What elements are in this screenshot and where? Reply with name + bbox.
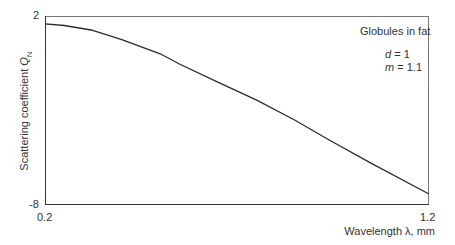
x-axis-label: Wavelength λ, mm xyxy=(344,225,435,237)
param-m-name: m xyxy=(385,61,394,73)
x-tick-right: 1.2 xyxy=(420,211,435,223)
param-d-name: d xyxy=(385,48,391,60)
y-tick-top: 2 xyxy=(33,9,39,21)
annotation-title: Globules in fat xyxy=(360,25,430,37)
y-tick-bottom: -8 xyxy=(29,198,39,210)
y-axis-label: Scattering coefficient QN xyxy=(18,51,33,170)
y-axis-label-text: Scattering coefficient xyxy=(18,66,30,171)
param-m-value: = 1.1 xyxy=(397,61,422,73)
param-m: m = 1.1 xyxy=(385,61,422,73)
y-axis-symbol: Q xyxy=(18,57,30,66)
y-axis-subscript: N xyxy=(25,51,34,57)
x-tick-left: 0.2 xyxy=(37,211,52,223)
param-d: d = 1 xyxy=(385,48,410,60)
param-d-value: = 1 xyxy=(394,48,410,60)
